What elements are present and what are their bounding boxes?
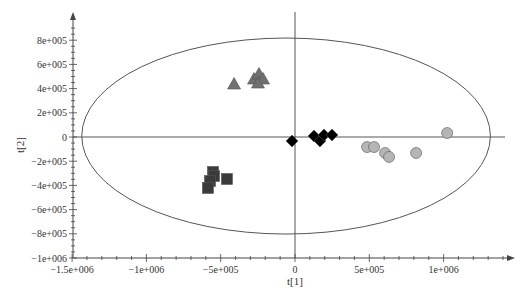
- x-tick-label: −1e+006: [129, 264, 165, 275]
- y-tick-label: −2e+005: [31, 156, 67, 167]
- group-triangle: [228, 67, 270, 89]
- x-tick-label: −5e+005: [203, 264, 239, 275]
- axes: 8e+0056e+0054e+0052e+0050−2e+005−4e+005−…: [31, 12, 515, 275]
- data-point-circle: [411, 147, 422, 158]
- x-tick-label: 1e+006: [429, 264, 459, 275]
- data-point-square: [202, 182, 213, 193]
- data-point-square: [221, 173, 232, 184]
- y-tick-label: 8e+005: [37, 35, 67, 46]
- data-point-diamond: [326, 129, 338, 141]
- confidence-ellipse: [82, 38, 491, 234]
- y-tick-label: 4e+005: [37, 83, 67, 94]
- group-circle: [362, 128, 453, 163]
- score-scatter-plot: 8e+0056e+0054e+0052e+0050−2e+005−4e+005−…: [0, 0, 532, 301]
- group-diamond: [286, 129, 338, 147]
- y-axis-title: t[2]: [14, 137, 26, 153]
- data-point-circle: [442, 128, 453, 139]
- x-tick-label: 5e+005: [354, 264, 384, 275]
- x-tick-label: 0: [293, 264, 298, 275]
- data-point-circle: [384, 151, 395, 162]
- y-axis-arrow-icon: [70, 12, 76, 20]
- x-axis-title: t[1]: [287, 275, 303, 287]
- y-tick-label: −4e+005: [31, 180, 67, 191]
- group-square: [202, 166, 232, 193]
- x-axis-arrow-icon: [507, 255, 515, 261]
- y-tick-label: 0: [62, 132, 67, 143]
- y-tick-label: −6e+005: [31, 204, 67, 215]
- y-tick-label: 6e+005: [37, 59, 67, 70]
- data-points: [202, 67, 452, 193]
- hotelling-ellipse: [82, 38, 491, 234]
- data-point-triangle: [228, 78, 241, 90]
- y-tick-label: −1e+006: [31, 253, 67, 264]
- data-point-circle: [369, 142, 380, 153]
- y-tick-label: −8e+005: [31, 228, 67, 239]
- y-tick-label: 2e+005: [37, 107, 67, 118]
- x-tick-label: −1.5e+006: [50, 264, 93, 275]
